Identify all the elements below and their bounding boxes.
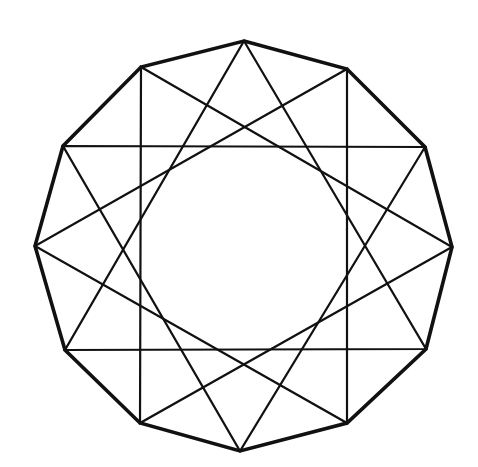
outer-dodecagon bbox=[35, 41, 452, 451]
star-dodecagon-figure bbox=[0, 0, 478, 467]
triangle-2 bbox=[35, 69, 347, 423]
triangle-3 bbox=[63, 146, 425, 451]
inscribed-triangles bbox=[35, 41, 452, 451]
